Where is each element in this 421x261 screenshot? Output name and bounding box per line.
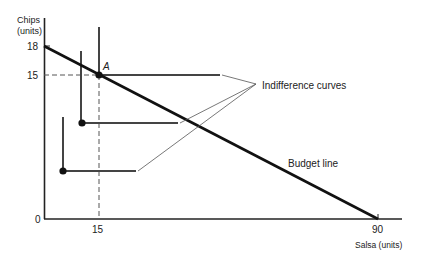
x-tick-label-90: 90 <box>372 224 384 235</box>
y-axis-label-line2: (units) <box>17 26 42 36</box>
point-a-label: A <box>102 61 110 72</box>
leader-line-3 <box>138 84 256 171</box>
indifference-curves-label: Indifference curves <box>262 80 346 91</box>
chart: Chips (units) 18 15 0 15 90 Salsa (units… <box>0 0 421 261</box>
y-tick-label-18: 18 <box>27 41 39 52</box>
y-axis-label-line1: Chips <box>17 15 41 25</box>
point-a <box>95 71 102 78</box>
point-middle <box>78 119 85 126</box>
indifference-curve-middle <box>81 51 178 123</box>
indifference-curve-a <box>99 27 220 75</box>
x-tick-label-15: 15 <box>92 224 104 235</box>
x-axis-label: Salsa (units) <box>355 240 402 250</box>
leader-line-1 <box>222 75 256 84</box>
budget-line <box>44 46 378 219</box>
y-tick-label-15: 15 <box>27 70 39 81</box>
point-lower <box>59 167 66 174</box>
budget-line-label: Budget line <box>288 158 338 169</box>
y-tick-label-0: 0 <box>35 214 41 225</box>
leader-line-2 <box>180 84 256 123</box>
